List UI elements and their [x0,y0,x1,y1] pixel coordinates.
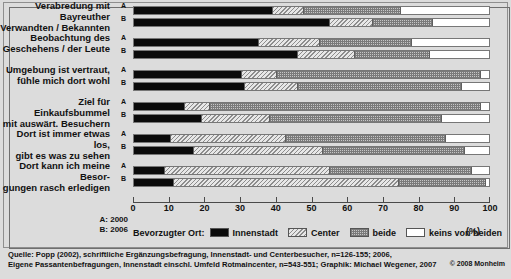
legend-item-label: Center [311,228,340,238]
legend-item-innenstadt: Innenstadt [210,228,279,238]
row-mark-b: B [121,143,126,150]
x-axis-tick [276,197,277,202]
category-label: Ziel für Einkaufsbummelmit auswärt. Besu… [0,96,110,129]
bar-row [133,102,490,111]
bar-segment-keins [461,83,489,90]
bar-segment-innenstadt [134,7,272,14]
bar-row [133,70,490,79]
bar-row [133,166,490,175]
bar-row [133,50,490,59]
bar-segment-beide [297,83,460,90]
x-axis-tick [347,197,348,202]
row-mark-b: B [121,47,126,54]
legend-swatch-beide [350,228,369,237]
copyright-note: © 2008 Monheim [450,260,505,267]
x-axis-tick-label: 80 [414,203,424,213]
bar-row [133,178,490,187]
legend-swatch-keins [406,228,425,237]
row-mark-a: A [121,98,126,105]
x-axis-tick [383,197,384,202]
bar-segment-innenstadt [134,115,201,122]
category-label: Dort kann ich meine Besor-gungen rasch e… [0,160,110,193]
chart-page: ABVerabredung mit BayreutherVerwandten /… [0,0,511,279]
x-axis-tick-label: 70 [378,203,388,213]
bar-segment-beide [276,71,480,78]
bar-segment-center [258,39,318,46]
bar-segment-innenstadt [134,103,184,110]
row-mark-a: A [121,34,126,41]
chart-legend: Bevorzugter Ort: InnenstadtCenterbeideke… [133,226,511,239]
category-label-line: Geschehens / der Leute [3,43,110,54]
bar-segment-keins [464,147,489,154]
row-mark-a: A [121,66,126,73]
bar-segment-innenstadt [134,83,244,90]
bar-segment-center [173,179,398,186]
row-mark-b: B [121,175,126,182]
legend-swatch-center [288,228,307,237]
ab-legend-line-b: B: 2006 [60,225,128,235]
bar-row [133,18,490,27]
bar-segment-innenstadt [134,71,241,78]
bar-segment-keins [480,71,489,78]
plot-area [133,3,490,196]
x-axis-tick-label: 30 [235,203,245,213]
bar-segment-keins [485,179,489,186]
source-note: Quelle: Popp (2002), schriftliche Ergänz… [8,250,502,270]
bar-segment-center [297,51,354,58]
bar-segment-innenstadt [134,51,297,58]
row-mark-a: A [121,130,126,137]
bar-segment-center [164,167,329,174]
row-mark-b: B [121,79,126,86]
bar-segment-center [272,7,302,14]
bar-row [133,38,490,47]
bar-segment-beide [322,147,464,154]
bar-row [133,134,490,143]
row-mark-a: A [121,2,126,9]
x-axis-tick-label: 10 [164,203,174,213]
x-axis-tick [454,197,455,202]
x-axis-tick-label: 20 [199,203,209,213]
bar-segment-innenstadt [134,19,329,26]
bar-segment-center [193,147,323,154]
category-label-line: Verabredung mit Bayreuther [0,0,110,22]
category-label-line: Dort kann ich meine Besor- [0,160,110,182]
category-label: Umgebung ist vertraut,fühle mich dort wo… [6,64,110,86]
bar-segment-center [329,19,372,26]
bar-segment-keins [411,39,489,46]
legend-item-center: Center [288,228,340,238]
legend-swatch-innenstadt [210,228,229,237]
bar-segment-beide [285,135,445,142]
x-axis-tick [419,197,420,202]
category-label-line: Ziel für Einkaufsbummel [0,96,110,118]
legend-item-beide: beide [350,228,397,238]
x-axis-tick-label: 50 [306,203,316,213]
bar-segment-keins [441,115,489,122]
bar-row [133,6,490,15]
category-labels: ABVerabredung mit BayreutherVerwandten /… [0,0,133,196]
x-axis-tick-label: 60 [342,203,352,213]
ab-year-legend: A: 2000 B: 2006 [60,215,128,235]
category-label-line: Dort ist immer etwas los, [0,128,110,150]
bar-segment-center [184,103,209,110]
ab-legend-line-a: A: 2000 [60,215,128,225]
axis-unit-label: (%) [466,226,480,236]
bar-segment-innenstadt [134,167,164,174]
x-axis-tick [312,197,313,202]
x-axis-tick-labels: 0102030405060708090100 [133,203,490,215]
row-mark-b: B [121,111,126,118]
x-axis-tick [240,197,241,202]
source-line-1: Quelle: Popp (2002), schriftliche Ergänz… [8,250,502,260]
bar-segment-keins [400,7,489,14]
bar-row [133,82,490,91]
bar-segment-keins [429,51,489,58]
bar-segment-innenstadt [134,179,173,186]
bar-segment-center [170,135,285,142]
x-axis-tick [489,197,490,202]
source-line-2: Eigene Passantenbefragungen, Innenstadt … [8,260,502,270]
x-axis-tick-label: 40 [271,203,281,213]
bar-row [133,114,490,123]
bar-segment-beide [319,39,411,46]
bar-segment-innenstadt [134,135,170,142]
bar-segment-innenstadt [134,147,193,154]
bar-segment-center [244,83,297,90]
